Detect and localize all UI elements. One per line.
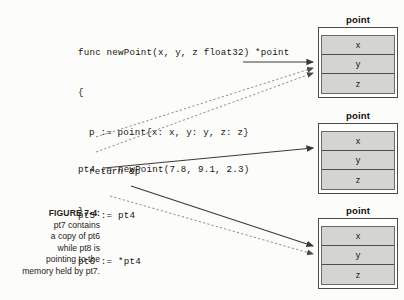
point-box-3-field-y: y (322, 246, 394, 265)
var-line-pt5: pt5 := pt4 (78, 208, 249, 223)
point-box-3-title: point (318, 205, 398, 216)
point-box-1-field-z: z (322, 74, 394, 93)
point-box-3-field-z: z (322, 265, 394, 284)
point-box-2-frame: x y z (318, 123, 398, 194)
point-box-3-field-x: x (322, 227, 394, 246)
variable-listing: pt4 := newPoint(7.8, 9.1, 2.3) pt5 := pt… (78, 131, 249, 300)
point-struct-box-3: point x y z (318, 205, 398, 289)
code-line-func-signature: func newPoint(x, y, z float32) *point (78, 46, 289, 59)
point-box-3-frame: x y z (318, 218, 398, 289)
figure-caption-line-3: while pt8 is (0, 243, 100, 255)
point-box-2-field-y: y (322, 151, 394, 170)
figure-caption-label: FIGURE 7-4: (0, 208, 100, 220)
figure-caption-line-4: pointing to the (0, 254, 100, 266)
figure-caption-line-1: pt7 contains (0, 220, 100, 232)
point-box-1-field-y: y (322, 55, 394, 74)
figure-caption-line-2: a copy of pt6 (0, 231, 100, 243)
figure-caption-line-5: memory held by pt7. (0, 266, 100, 278)
var-line-pt6: pt6 := *pt4 (78, 254, 249, 269)
point-box-2-field-x: x (322, 132, 394, 151)
point-box-3-cells: x y z (321, 226, 395, 285)
var-line-pt4: pt4 := newPoint(7.8, 9.1, 2.3) (78, 162, 249, 177)
code-line-open-brace: { (78, 86, 289, 99)
figure-7-4: func newPoint(x, y, z float32) *point { … (0, 0, 404, 300)
point-struct-box-1: point x y z (318, 14, 398, 98)
point-box-1-frame: x y z (318, 27, 398, 98)
point-box-2-field-z: z (322, 170, 394, 189)
point-box-1-title: point (318, 14, 398, 25)
figure-caption: FIGURE 7-4: pt7 contains a copy of pt6 w… (0, 208, 100, 278)
point-box-1-cells: x y z (321, 35, 395, 94)
point-box-2-cells: x y z (321, 131, 395, 190)
point-struct-box-2: point x y z (318, 110, 398, 194)
point-box-1-field-x: x (322, 36, 394, 55)
point-box-2-title: point (318, 110, 398, 121)
